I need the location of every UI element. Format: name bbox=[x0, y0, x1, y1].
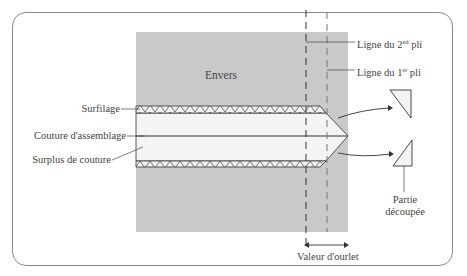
label-surfilage: Surfilage bbox=[40, 103, 120, 115]
label-partie-decoupee: Partie découpée bbox=[385, 194, 425, 218]
label-couture-assemblage: Couture d'assemblage bbox=[10, 130, 126, 142]
label-valeur-ourlet: Valeur d'ourlet bbox=[297, 251, 359, 263]
overlock-top bbox=[136, 106, 326, 113]
label-first-fold: Ligne du 1er pli bbox=[357, 64, 421, 79]
cut-piece-top bbox=[390, 90, 411, 118]
cut-piece-bottom bbox=[393, 140, 412, 166]
seam-allowance bbox=[136, 113, 348, 161]
label-second-fold: Ligne du 2nd pli bbox=[357, 36, 422, 51]
label-envers: Envers bbox=[205, 69, 237, 81]
overlock-bottom bbox=[136, 161, 326, 167]
label-surplus-couture: Surplus de couture bbox=[10, 154, 111, 166]
